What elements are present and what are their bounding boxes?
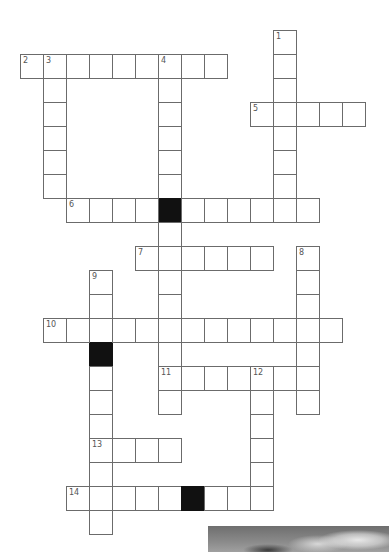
crossword-cell[interactable]: [112, 54, 136, 79]
crossword-cell[interactable]: [89, 54, 113, 79]
crossword-cell[interactable]: [158, 390, 182, 415]
crossword-cell[interactable]: 3: [43, 54, 67, 79]
crossword-cell[interactable]: 1: [273, 30, 297, 55]
crossword-cell[interactable]: [250, 414, 274, 439]
crossword-cell[interactable]: [250, 462, 274, 487]
crossword-cell[interactable]: [250, 198, 274, 223]
crossword-cell[interactable]: [112, 438, 136, 463]
crossword-cell[interactable]: [135, 486, 159, 511]
crossword-cell[interactable]: [135, 198, 159, 223]
crossword-cell[interactable]: [273, 78, 297, 103]
crossword-cell[interactable]: [181, 246, 205, 271]
crossword-cell[interactable]: [296, 342, 320, 367]
crossword-cell[interactable]: [227, 318, 251, 343]
crossword-cell[interactable]: [181, 318, 205, 343]
crossword-cell[interactable]: [181, 198, 205, 223]
crossword-cell[interactable]: [296, 366, 320, 391]
crossword-cell[interactable]: [250, 438, 274, 463]
crossword-cell[interactable]: [296, 390, 320, 415]
crossword-cell[interactable]: [273, 102, 297, 127]
crossword-cell[interactable]: [158, 438, 182, 463]
crossword-cell[interactable]: [89, 510, 113, 535]
crossword-cell[interactable]: [89, 294, 113, 319]
crossword-cell[interactable]: [181, 366, 205, 391]
crossword-cell[interactable]: [135, 438, 159, 463]
crossword-cell[interactable]: [273, 198, 297, 223]
crossword-cell[interactable]: [158, 126, 182, 151]
crossword-cell[interactable]: [158, 78, 182, 103]
crossword-cell[interactable]: [43, 126, 67, 151]
crossword-cell[interactable]: [250, 246, 274, 271]
crossword-cell[interactable]: 13: [89, 438, 113, 463]
crossword-cell[interactable]: [158, 246, 182, 271]
crossword-cell[interactable]: 7: [135, 246, 159, 271]
black-cell: [181, 486, 205, 511]
crossword-cell[interactable]: [89, 414, 113, 439]
crossword-cell[interactable]: [158, 294, 182, 319]
crossword-cell[interactable]: [227, 486, 251, 511]
crossword-cell[interactable]: [204, 246, 228, 271]
crossword-cell[interactable]: [296, 270, 320, 295]
crossword-cell[interactable]: [66, 54, 90, 79]
crossword-cell[interactable]: [204, 54, 228, 79]
crossword-cell[interactable]: [158, 102, 182, 127]
crossword-cell[interactable]: 4: [158, 54, 182, 79]
crossword-cell[interactable]: [112, 318, 136, 343]
crossword-cell[interactable]: 9: [89, 270, 113, 295]
crossword-cell[interactable]: [89, 366, 113, 391]
crossword-cell[interactable]: [319, 318, 343, 343]
crossword-cell[interactable]: [158, 270, 182, 295]
crossword-cell[interactable]: [158, 342, 182, 367]
crossword-cell[interactable]: [296, 294, 320, 319]
crossword-cell[interactable]: [66, 318, 90, 343]
crossword-cell[interactable]: 11: [158, 366, 182, 391]
crossword-cell[interactable]: [89, 390, 113, 415]
crossword-cell[interactable]: [158, 318, 182, 343]
crossword-cell[interactable]: [158, 174, 182, 199]
crossword-cell[interactable]: [135, 54, 159, 79]
crossword-cell[interactable]: 8: [296, 246, 320, 271]
crossword-cell[interactable]: [319, 102, 343, 127]
crossword-cell[interactable]: 12: [250, 366, 274, 391]
crossword-cell[interactable]: [158, 150, 182, 175]
crossword-cell[interactable]: [89, 462, 113, 487]
crossword-cell[interactable]: [112, 198, 136, 223]
crossword-cell[interactable]: [227, 366, 251, 391]
crossword-cell[interactable]: [89, 198, 113, 223]
crossword-cell[interactable]: [273, 126, 297, 151]
crossword-cell[interactable]: [135, 318, 159, 343]
crossword-cell[interactable]: [250, 318, 274, 343]
crossword-cell[interactable]: [250, 390, 274, 415]
crossword-cell[interactable]: [204, 318, 228, 343]
crossword-cell[interactable]: [273, 318, 297, 343]
crossword-cell[interactable]: 6: [66, 198, 90, 223]
crossword-cell[interactable]: [43, 174, 67, 199]
crossword-cell[interactable]: [296, 102, 320, 127]
crossword-cell[interactable]: [273, 174, 297, 199]
crossword-cell[interactable]: [342, 102, 366, 127]
crossword-cell[interactable]: [227, 198, 251, 223]
crossword-cell[interactable]: 2: [20, 54, 44, 79]
crossword-cell[interactable]: [112, 486, 136, 511]
crossword-cell[interactable]: [273, 150, 297, 175]
crossword-cell[interactable]: [204, 366, 228, 391]
crossword-cell[interactable]: [296, 318, 320, 343]
crossword-cell[interactable]: 14: [66, 486, 90, 511]
crossword-cell[interactable]: [227, 246, 251, 271]
crossword-cell[interactable]: [204, 198, 228, 223]
crossword-cell[interactable]: [273, 54, 297, 79]
crossword-cell[interactable]: 5: [250, 102, 274, 127]
crossword-cell[interactable]: [296, 198, 320, 223]
crossword-cell[interactable]: [43, 150, 67, 175]
crossword-cell[interactable]: [89, 318, 113, 343]
crossword-cell[interactable]: 10: [43, 318, 67, 343]
crossword-cell[interactable]: [204, 486, 228, 511]
crossword-cell[interactable]: [273, 366, 297, 391]
crossword-cell[interactable]: [181, 54, 205, 79]
crossword-cell[interactable]: [43, 102, 67, 127]
crossword-cell[interactable]: [158, 486, 182, 511]
crossword-cell[interactable]: [43, 78, 67, 103]
crossword-cell[interactable]: [250, 486, 274, 511]
crossword-cell[interactable]: [158, 222, 182, 247]
crossword-cell[interactable]: [89, 486, 113, 511]
